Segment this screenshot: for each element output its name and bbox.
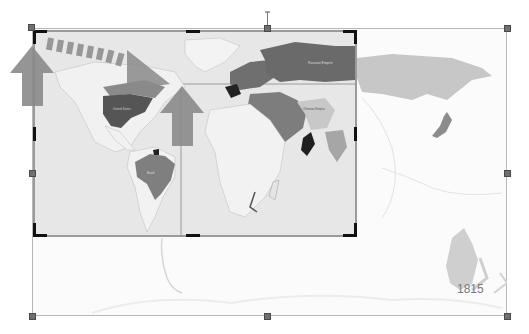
resize-handle-left-middle[interactable]: [29, 170, 36, 177]
label-ottoman-empire: Ottoman Empire: [303, 107, 325, 111]
crop-handle-left-middle[interactable]: [33, 127, 36, 141]
resize-handle-top-right[interactable]: [504, 25, 511, 32]
crop-handle-bottom-left[interactable]: [33, 223, 47, 237]
crop-handle-bottom-right[interactable]: [343, 223, 357, 237]
label-brazil: Brazil: [147, 171, 155, 175]
resize-handle-bottom-left[interactable]: [29, 313, 36, 320]
dashed-arrow-icon: [46, 38, 170, 90]
crop-handle-top-middle[interactable]: [186, 30, 200, 33]
label-united-states: United States: [113, 107, 132, 111]
year-label: 1815: [457, 282, 484, 296]
up-arrow-center[interactable]: [160, 86, 204, 146]
resize-handle-right-middle[interactable]: [504, 170, 511, 177]
crop-handle-bottom-middle[interactable]: [186, 234, 200, 237]
resize-handle-bottom-right[interactable]: [504, 313, 511, 320]
crop-handle-top-left[interactable]: [33, 30, 47, 44]
crop-handle-top-right[interactable]: [343, 30, 357, 44]
up-arrow-icon: [160, 86, 204, 146]
resize-handle-top-middle[interactable]: [264, 25, 271, 32]
up-arrow-icon: [10, 46, 54, 106]
label-russian-empire: Russian Empire: [308, 61, 333, 65]
up-arrow-left[interactable]: [10, 46, 54, 106]
dashed-arrow[interactable]: [45, 32, 175, 92]
resize-handle-top-left[interactable]: [28, 24, 35, 31]
crop-handle-right-middle[interactable]: [354, 127, 357, 141]
resize-handle-bottom-middle[interactable]: [264, 313, 271, 320]
